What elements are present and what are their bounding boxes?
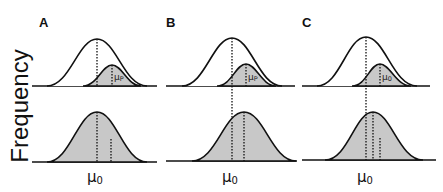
x-label-mu0-a: μ0 (87, 168, 103, 186)
figure-canvas: Frequency A μP μ0 B μP (0, 0, 443, 192)
panel-label-c: C (302, 15, 312, 30)
x-label-mu0-b: μ0 (222, 168, 238, 186)
panel-label-b: B (166, 15, 175, 30)
panel-c: C μ0 μ0 (302, 15, 436, 186)
y-axis-label: Frequency (6, 49, 33, 162)
panel-label-a: A (39, 15, 49, 30)
combined-distribution-curve-c (325, 112, 423, 160)
panel-a: A μP μ0 (32, 15, 157, 186)
x-label-mu0-c: μ0 (357, 168, 373, 186)
panel-b: B μP μ0 (166, 15, 297, 186)
